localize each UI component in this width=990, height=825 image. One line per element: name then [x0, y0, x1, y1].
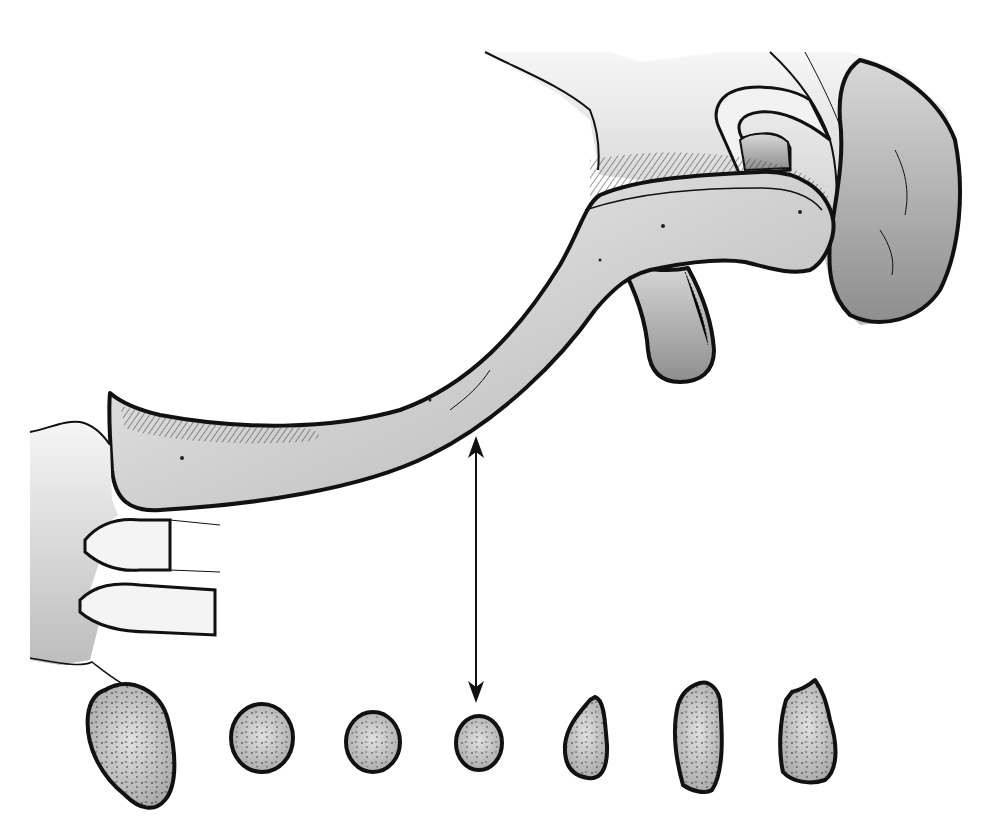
coracoid-process [620, 262, 714, 382]
acromion [829, 60, 960, 322]
clavicle-illustration [0, 0, 990, 825]
level-indicator-arrow [468, 436, 484, 703]
clavicle [109, 172, 833, 510]
cross-sections [88, 680, 836, 808]
first-ribs [80, 520, 220, 635]
